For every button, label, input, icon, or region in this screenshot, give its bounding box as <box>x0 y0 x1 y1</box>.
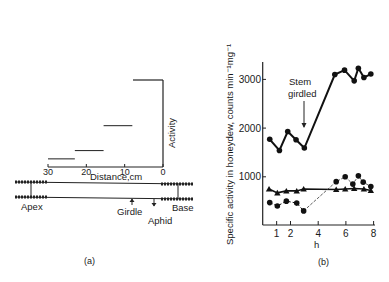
annotation-arrowhead-icon <box>302 123 307 128</box>
panel-b: 100020003000 12468 h Specific activity i… <box>224 44 377 267</box>
series-circles-solid-upper <box>267 65 374 153</box>
apex-label: Apex <box>21 201 43 212</box>
circle-marker-icon <box>350 181 356 187</box>
circle-marker-icon <box>342 174 348 180</box>
figure-canvas: 3020100 Distance,cm Activity Apex Base G… <box>0 0 389 282</box>
girdle-label: Girdle <box>117 206 142 217</box>
annotation-girdled: girdled <box>288 88 317 99</box>
circle-marker-icon <box>294 200 300 206</box>
series-circles-dashed-lower <box>267 173 374 214</box>
circle-marker-icon <box>342 67 348 73</box>
circle-marker-icon <box>368 71 374 77</box>
circle-marker-icon <box>356 65 362 71</box>
circle-marker-icon <box>333 179 339 185</box>
x-axis-label: h <box>314 239 319 250</box>
y-axis-label: Specific activity in honeydew, counts mi… <box>224 44 235 245</box>
x-tick-label: 2 <box>288 228 294 239</box>
annotation-stem: Stem <box>289 76 311 87</box>
circle-marker-icon <box>277 148 283 154</box>
circle-marker-icon <box>284 198 290 204</box>
circle-marker-icon <box>360 179 366 185</box>
circle-marker-icon <box>351 78 357 84</box>
circle-marker-icon <box>267 137 273 143</box>
y-ticks: 100020003000 <box>239 74 266 182</box>
distance-axis-label: Distance,cm <box>90 171 142 182</box>
circle-marker-icon <box>368 184 374 190</box>
activity-segments <box>48 126 132 159</box>
y-tick-label: 2000 <box>239 123 262 134</box>
circle-marker-icon <box>293 137 299 143</box>
stem-bottom-edge <box>15 197 193 199</box>
circle-marker-icon <box>361 75 367 81</box>
x-tick-label: 1 <box>274 228 280 239</box>
x-ticks: 12468 <box>274 221 377 239</box>
activity-axis-label: Activity <box>166 118 177 148</box>
caption-b: (b) <box>318 257 329 267</box>
y-tick-label: 3000 <box>239 74 262 85</box>
circle-marker-icon <box>267 200 273 206</box>
tick-label: 30 <box>43 167 53 177</box>
triangle-marker-icon <box>266 186 272 192</box>
data-series <box>266 65 374 213</box>
series-triangles-solid <box>266 185 374 195</box>
circle-marker-icon <box>356 173 362 179</box>
stem-diagram: Apex Base Girdle Aphid <box>15 182 194 226</box>
base-label: Base <box>172 202 194 213</box>
circle-marker-icon <box>285 129 291 135</box>
y-tick-label: 1000 <box>239 171 262 182</box>
aphid-label: Aphid <box>148 215 172 226</box>
caption-a: (a) <box>84 256 95 266</box>
aphid-arrowhead-icon <box>152 203 157 207</box>
circle-marker-icon <box>275 203 281 209</box>
x-tick-label: 8 <box>371 228 377 239</box>
circle-marker-icon <box>332 72 338 78</box>
tick-label: 0 <box>160 167 165 177</box>
circle-marker-icon <box>302 145 308 151</box>
panel-a: 3020100 Distance,cm Activity Apex Base G… <box>15 80 194 266</box>
x-tick-label: 4 <box>315 228 321 239</box>
stem-top-edge <box>15 182 193 184</box>
girdle-arrowhead-icon <box>130 199 135 203</box>
circle-marker-icon <box>301 208 307 214</box>
x-tick-label: 6 <box>343 228 349 239</box>
